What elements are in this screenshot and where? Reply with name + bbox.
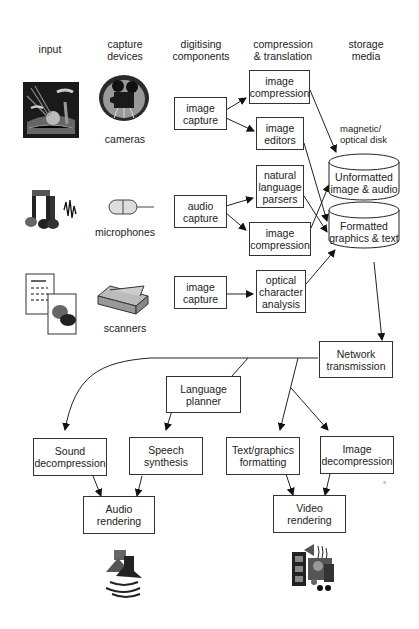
speaker-sound-icon xyxy=(102,548,146,602)
image-compression-box-2: image compression xyxy=(249,222,311,256)
device-scanners-label: scanners xyxy=(95,322,155,334)
image-editors-box: image editors xyxy=(256,117,304,150)
image-capture-box-2: image capture xyxy=(174,276,227,309)
arrow-capture-to-compression xyxy=(226,98,246,110)
arrow-audio-to-imgcomp xyxy=(226,213,246,230)
header-storage-media: storage media xyxy=(336,38,396,62)
line-network-to-planner xyxy=(232,358,248,376)
header-digitising-components: digitising components xyxy=(166,38,236,62)
music-notes-icon xyxy=(18,188,82,230)
arrow-textgfx-to-video xyxy=(286,474,293,495)
sound-decompression-box: Sound decompression xyxy=(33,438,107,476)
image-compression-box-1: image compression xyxy=(249,70,310,104)
stray-mark: ° xyxy=(383,480,386,489)
formatted-storage-label: Formatted graphics & text xyxy=(329,220,399,244)
speech-synthesis-box: Speech synthesis xyxy=(129,437,203,475)
unformatted-storage-label: Unformatted image & audio xyxy=(329,171,399,195)
header-input: input xyxy=(30,43,70,55)
device-cameras-label: cameras xyxy=(95,133,155,145)
image-decompression-box: Image decompression xyxy=(320,436,394,474)
optical-character-analysis-box: optical character analysis xyxy=(256,270,306,313)
arrow-sound-to-audio xyxy=(93,476,101,496)
header-compression-translation: compression & translation xyxy=(246,38,320,62)
arrow-imgdecomp-to-video xyxy=(325,474,330,495)
video-rendering-box: Video rendering xyxy=(273,495,346,533)
arrow-speech-to-audio xyxy=(137,476,142,496)
arrow-compression-to-unformatted xyxy=(310,90,336,152)
arrow-storage-to-network xyxy=(374,262,382,340)
disk-label: magnetic/ optical disk xyxy=(340,123,400,145)
arrow-network-to-sound xyxy=(65,358,150,430)
device-microphones-label: microphones xyxy=(93,226,157,238)
network-transmission-box: Network transmission xyxy=(319,341,393,378)
arrow-editors-to-formatted xyxy=(304,143,327,221)
text-graphics-formatting-box: Text/graphics formatting xyxy=(226,437,300,475)
audio-rendering-box: Audio rendering xyxy=(83,496,155,534)
film-camera-icon xyxy=(98,72,150,122)
header-capture-devices: capture devices xyxy=(95,38,155,62)
arrow-network-to-imgdecomp xyxy=(291,388,328,430)
arrow-network-to-textgfx xyxy=(280,358,298,430)
document-picture-icon xyxy=(24,272,80,336)
flatbed-scanner-icon xyxy=(96,284,152,316)
arrow-capture-to-editors xyxy=(226,118,254,131)
multimedia-video-icon xyxy=(290,542,338,592)
arrow-audio-to-parsers xyxy=(226,198,253,206)
language-planner-box: Language planner xyxy=(166,376,241,413)
landscape-picture-icon xyxy=(23,82,79,138)
audio-capture-box: audio capture xyxy=(174,195,227,228)
natural-language-parsers-box: natural language parsers xyxy=(256,165,304,208)
image-capture-box-1: image capture xyxy=(174,97,227,130)
microphone-icon xyxy=(108,198,158,216)
